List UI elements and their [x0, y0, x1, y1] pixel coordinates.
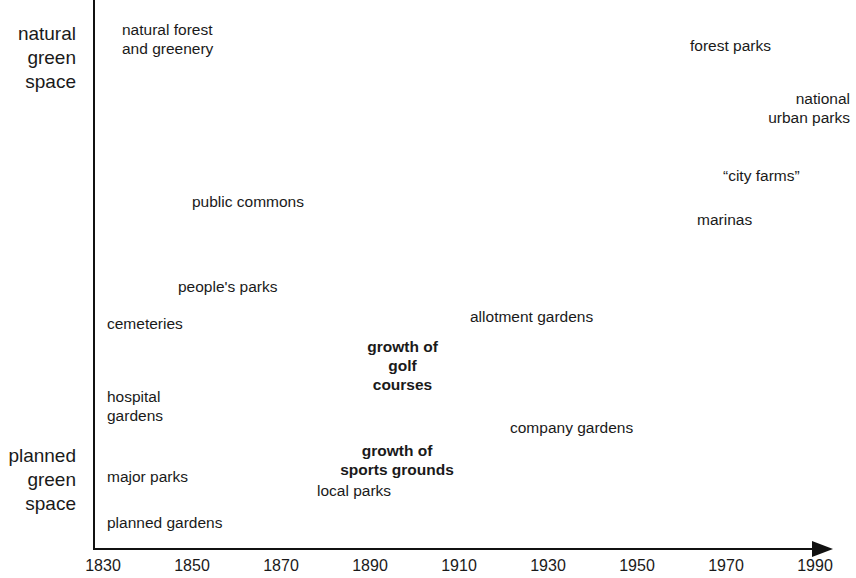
y-axis-label-natural-green-space: natural green space [0, 22, 76, 94]
chart-label-city-farms: “city farms” [723, 166, 800, 185]
chart-label-major-parks: major parks [107, 467, 188, 486]
x-axis-year-1970: 1970 [696, 556, 756, 575]
x-axis-year-1910: 1910 [429, 556, 489, 575]
chart-label-public-commons: public commons [192, 192, 304, 211]
x-axis-year-1990: 1990 [785, 556, 845, 575]
x-axis-year-1830: 1830 [73, 556, 133, 575]
x-axis-arrow-icon [812, 541, 833, 557]
chart-label-marinas: marinas [697, 210, 752, 229]
chart-label-company-gardens: company gardens [510, 418, 633, 437]
y-axis-line [93, 0, 95, 550]
x-axis-year-1890: 1890 [340, 556, 400, 575]
chart-label-national-urban-parks: national urban parks [768, 89, 850, 127]
x-axis-year-1930: 1930 [518, 556, 578, 575]
chart-label-hospital-gardens: hospital gardens [107, 387, 163, 425]
x-axis-year-1850: 1850 [162, 556, 222, 575]
x-axis-year-1950: 1950 [607, 556, 667, 575]
chart-label-local-parks: local parks [317, 481, 391, 500]
timeline-chart: natural green space planned green space … [0, 0, 856, 578]
chart-label-cemeteries: cemeteries [107, 314, 183, 333]
chart-label-planned-gardens: planned gardens [107, 513, 223, 532]
chart-label-forest-parks: forest parks [690, 36, 771, 55]
chart-label-growth-of-golf-courses: growth of golf courses [357, 337, 448, 394]
chart-label-natural-forest-and-greenery: natural forest and greenery [122, 20, 213, 58]
x-axis-year-1870: 1870 [251, 556, 311, 575]
y-axis-label-planned-green-space: planned green space [0, 444, 76, 516]
chart-label-allotment-gardens: allotment gardens [470, 307, 593, 326]
x-axis-line [93, 548, 815, 550]
chart-label-peoples-parks: people's parks [178, 277, 277, 296]
chart-label-growth-of-sports-grounds: growth of sports grounds [337, 441, 457, 479]
